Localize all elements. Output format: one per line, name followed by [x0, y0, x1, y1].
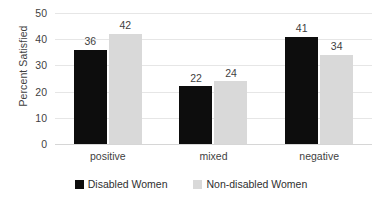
bar[interactable]: [320, 55, 353, 144]
y-axis-tick-label: 20: [25, 86, 47, 97]
bar[interactable]: [74, 50, 107, 144]
bar-value-label: 41: [285, 23, 318, 34]
x-axis-tick-label: positive: [55, 150, 161, 162]
bar-value-label: 34: [320, 41, 353, 52]
legend-swatch-icon: [193, 180, 202, 189]
bar-group: 4134: [266, 13, 372, 144]
bar-value-label: 36: [74, 36, 107, 47]
y-axis-tick-label: 10: [25, 113, 47, 124]
bar[interactable]: [109, 34, 142, 144]
y-axis-tick-label: 0: [25, 139, 47, 150]
plot-area: 364222244134: [55, 13, 372, 144]
bar-value-label: 24: [214, 68, 247, 79]
x-axis-tick-label: mixed: [161, 150, 267, 162]
bar-value-label: 22: [179, 73, 212, 84]
bar[interactable]: [285, 37, 318, 144]
y-axis-tick-label: 40: [25, 34, 47, 45]
y-axis-tick-label: 30: [25, 60, 47, 71]
bar-group: 2224: [161, 13, 267, 144]
gridline: [55, 144, 372, 145]
bar-chart: Percent Satisfied 01020304050 3642222441…: [0, 0, 382, 203]
bar-group: 3642: [55, 13, 161, 144]
chart-legend: Disabled WomenNon-disabled Women: [0, 179, 382, 190]
legend-item[interactable]: Non-disabled Women: [193, 179, 307, 190]
x-axis-tick-label: negative: [266, 150, 372, 162]
bar-value-label: 42: [109, 20, 142, 31]
legend-swatch-icon: [75, 180, 84, 189]
legend-item[interactable]: Disabled Women: [75, 179, 168, 190]
y-axis-tick-labels: 01020304050: [22, 13, 47, 144]
legend-label: Non-disabled Women: [206, 179, 307, 190]
legend-label: Disabled Women: [88, 179, 168, 190]
y-axis-tick-label: 50: [25, 8, 47, 19]
bar[interactable]: [179, 86, 212, 144]
bar[interactable]: [214, 81, 247, 144]
